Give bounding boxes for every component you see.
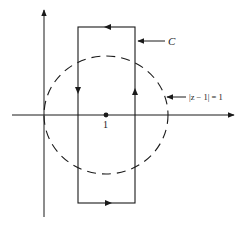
arrow-left-icon [104,24,111,30]
point-one [104,113,109,118]
point-one-label: 1 [103,119,108,130]
arrow-down-icon [75,87,81,94]
arrow-right-icon [105,200,112,206]
contour-label: C [168,35,176,47]
arrow-up-icon [132,88,138,95]
circle-label: |z − 1| = 1 [189,92,223,102]
diagram-canvas: 1 C |z − 1| = 1 [0,0,246,226]
